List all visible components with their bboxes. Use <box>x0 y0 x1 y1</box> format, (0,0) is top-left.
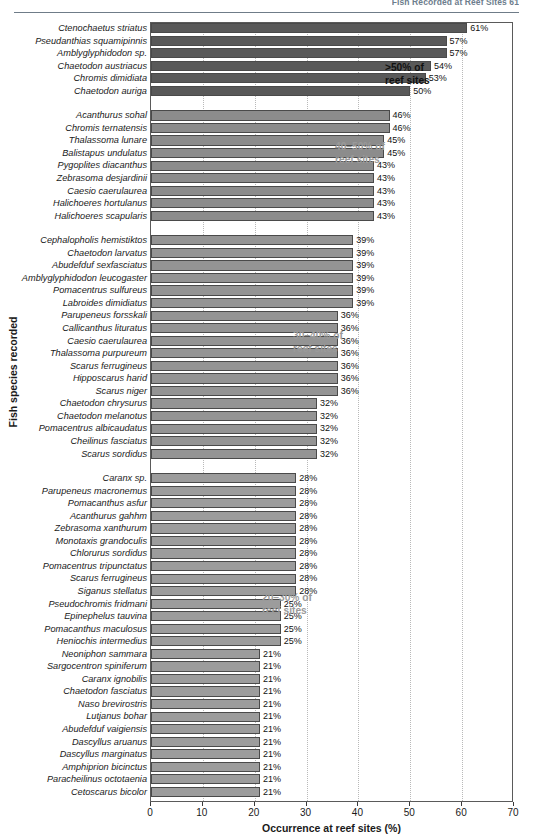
bar-row: Zebrasoma xanthurum28% <box>0 522 533 535</box>
bar <box>151 649 260 659</box>
bar-row: Pomacentrus sulfureus39% <box>0 284 533 297</box>
bar <box>151 674 260 684</box>
x-tick-40 <box>357 802 358 806</box>
bar-row: Scarus ferrugineus36% <box>0 360 533 373</box>
bar-row: Halichoeres hortulanus43% <box>0 197 533 210</box>
species-label: Chaetodon larvatus <box>0 247 147 260</box>
bar <box>151 473 296 483</box>
bar-value-label: 43% <box>377 210 395 222</box>
bar <box>151 173 374 183</box>
bar-value-label: 28% <box>299 472 317 484</box>
group-annotation-line2: reef sites <box>262 605 312 618</box>
bar-row: Halichoeres scapularis43% <box>0 210 533 223</box>
bar-value-label: 21% <box>263 773 281 785</box>
bar-value-label: 21% <box>263 723 281 735</box>
bar-row: Caranx sp.28% <box>0 472 533 485</box>
group-annotation-line1: 40–50% of <box>335 141 385 154</box>
species-label: Chaetodon austriacus <box>0 60 147 73</box>
bar-row: Caesio caerulaurea36% <box>0 335 533 348</box>
bar-value-label: 45% <box>387 147 405 159</box>
species-label: Chaetodon chrysurus <box>0 397 147 410</box>
species-label: Pomacanthus asfur <box>0 497 147 510</box>
bar-value-label: 61% <box>470 22 488 34</box>
bar-value-label: 57% <box>450 47 468 59</box>
running-head: Fish Recorded at Reef Sites 61 <box>392 0 519 7</box>
bar-row: Zebrasoma desjardinii43% <box>0 172 533 185</box>
group-annotation-line2: reef sites <box>335 154 385 167</box>
species-label: Pseudochromis fridmani <box>0 598 147 611</box>
header-rule <box>14 12 519 13</box>
bar-value-label: 21% <box>263 786 281 798</box>
x-axis-title: Occurrence at reef sites (%) <box>150 822 513 834</box>
bar-value-label: 36% <box>341 309 359 321</box>
species-label: Dascyllus aruanus <box>0 736 147 749</box>
bar <box>151 411 317 421</box>
bar <box>151 36 447 46</box>
species-label: Amblyglyphidodon leucogaster <box>0 272 147 285</box>
bar <box>151 198 374 208</box>
species-label: Caranx ignobilis <box>0 673 147 686</box>
species-label: Parupeneus forsskali <box>0 309 147 322</box>
bar-row: Amblyglyphidodon leucogaster39% <box>0 272 533 285</box>
bar-row: Chaetodon melanotus32% <box>0 410 533 423</box>
bar-row: Scarus sordidus32% <box>0 448 533 461</box>
figure-bar-chart: Fish species recorded Ctenochaetus stria… <box>0 16 533 767</box>
bar-row: Ctenochaetus striatus61% <box>0 22 533 35</box>
group-separator <box>0 97 533 109</box>
bar-value-label: 21% <box>263 761 281 773</box>
page-header: Fish Recorded at Reef Sites 61 <box>0 0 533 16</box>
bar <box>151 712 260 722</box>
species-label: Acanthurus sohal <box>0 109 147 122</box>
bar-value-label: 25% <box>284 635 302 647</box>
bar <box>151 424 317 434</box>
bar <box>151 574 296 584</box>
species-label: Acanthurus gahhm <box>0 510 147 523</box>
bar <box>151 248 353 258</box>
species-label: Caesio caerulaurea <box>0 335 147 348</box>
species-label: Scarus ferrugineus <box>0 360 147 373</box>
bar <box>151 724 260 734</box>
bar <box>151 774 260 784</box>
bar-row: Neoniphon sammara21% <box>0 648 533 661</box>
x-tick-label-60: 60 <box>441 807 481 818</box>
bar-value-label: 43% <box>377 185 395 197</box>
bar <box>151 511 296 521</box>
group-annotation-line1: 20–30% of <box>262 592 312 605</box>
bar-value-label: 45% <box>387 134 405 146</box>
species-label: Amphiprion bicinctus <box>0 761 147 774</box>
bar-row: Caesio caerulaurea43% <box>0 185 533 198</box>
bar-value-label: 46% <box>393 109 411 121</box>
bar-row: Chaetodon chrysurus32% <box>0 397 533 410</box>
bar <box>151 260 353 270</box>
species-label: Abudefduf vaigiensis <box>0 723 147 736</box>
species-label: Pygoplites diacanthus <box>0 159 147 172</box>
bar-value-label: 21% <box>263 710 281 722</box>
bar-value-label: 39% <box>356 284 374 296</box>
bar <box>151 787 260 797</box>
x-tick-0 <box>150 802 151 806</box>
bar-value-label: 21% <box>263 685 281 697</box>
species-label: Neoniphon sammara <box>0 648 147 661</box>
bar-row: Thalassoma purpureum36% <box>0 347 533 360</box>
species-label: Amblyglyphidodon sp. <box>0 47 147 60</box>
species-label: Halichoeres scapularis <box>0 210 147 223</box>
bar-value-label: 32% <box>320 397 338 409</box>
bar <box>151 298 353 308</box>
bar-value-label: 57% <box>450 35 468 47</box>
bar-row: Amphiprion bicinctus21% <box>0 761 533 774</box>
bar-row: Callicanthus lituratus36% <box>0 322 533 335</box>
bar-value-label: 32% <box>320 435 338 447</box>
species-label: Zebrasoma xanthurum <box>0 522 147 535</box>
bar <box>151 386 338 396</box>
bar-row: Chromis dimidiata53% <box>0 72 533 85</box>
species-label: Monotaxis grandoculis <box>0 535 147 548</box>
x-tick-30 <box>306 802 307 806</box>
group-annotation: 30–40% ofreef sites <box>293 330 343 355</box>
bar-value-label: 21% <box>263 648 281 660</box>
x-tick-label-20: 20 <box>234 807 274 818</box>
species-label: Cheilinus fasciatus <box>0 435 147 448</box>
bar <box>151 361 338 371</box>
bar-row: Pomacentrus albicaudatus32% <box>0 422 533 435</box>
species-label: Caranx sp. <box>0 472 147 485</box>
group-annotation: >50% ofreef sites <box>385 62 430 87</box>
